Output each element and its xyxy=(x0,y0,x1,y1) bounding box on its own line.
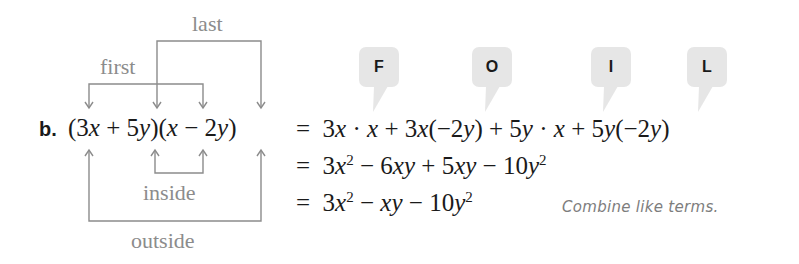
step-2-products: = 3x2 − 6xy + 5xy − 10y2 xyxy=(296,152,547,180)
step-3-simplified: = 3x2 − xy − 10y2 xyxy=(296,189,473,217)
outside-label: outside xyxy=(131,230,195,252)
bubble-letter: O xyxy=(486,58,498,76)
part-label: b. xyxy=(39,115,57,143)
foil-bubble-outside: O xyxy=(472,47,512,87)
foil-bubble-last: L xyxy=(687,47,727,87)
step-1-foil-expansion: = 3x · x + 3x(−2y) + 5y · x + 5y(−2y) xyxy=(296,115,670,143)
first-label: first xyxy=(100,56,135,78)
bubble-letter: I xyxy=(609,58,613,76)
foil-bubble-first: F xyxy=(359,47,399,87)
bubble-tails xyxy=(373,86,713,112)
bubble-letter: F xyxy=(374,58,384,76)
inside-label: inside xyxy=(143,182,196,204)
last-label: last xyxy=(192,13,223,35)
foil-bubble-inside: I xyxy=(591,47,631,87)
binomial-product: (3x + 5y)(x − 2y) xyxy=(68,114,236,142)
bubble-letter: L xyxy=(702,58,712,76)
inside-bracket xyxy=(151,150,207,173)
first-bracket xyxy=(85,84,207,108)
last-bracket xyxy=(153,41,265,108)
combine-like-terms-note: Combine like terms. xyxy=(562,198,719,216)
